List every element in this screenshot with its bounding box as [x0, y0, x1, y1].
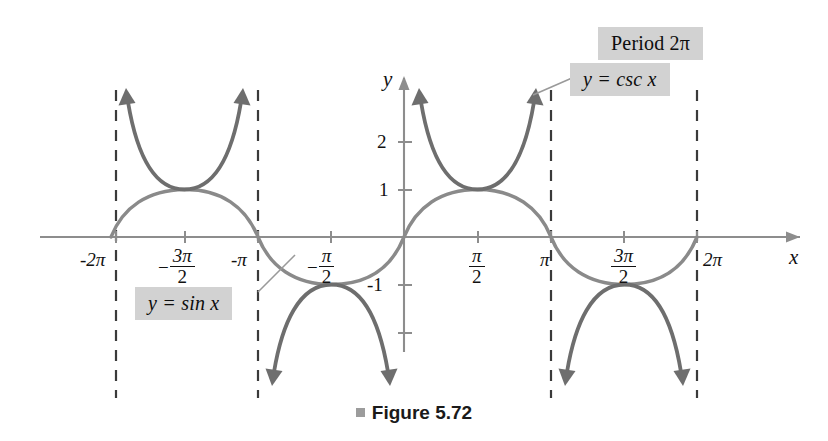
denominator-2: 2	[319, 267, 335, 288]
csc-branch-4	[567, 285, 681, 373]
csc-arrow-b1-right	[234, 88, 251, 106]
x-tick-label-pi: π	[540, 250, 550, 269]
callout-period-text: Period 2π	[611, 32, 690, 55]
asymptote-group	[116, 90, 697, 398]
denominator-2: 2	[469, 267, 485, 288]
figure-caption-text: Figure 5.72	[372, 402, 472, 423]
callout-csc-text: y = csc x	[583, 68, 657, 91]
csc-arrow-b2-left	[266, 369, 283, 387]
figure-caption: Figure 5.72	[0, 402, 828, 424]
x-tick-label-3pi-over-2: 3π 2	[611, 246, 636, 288]
figure-container: -2π − 3π 2 -π − π 2 π 2 π 3π 2	[0, 0, 828, 441]
y-tick-label-minus-1: -1	[367, 275, 383, 294]
numerator-3pi: 3π	[170, 246, 195, 267]
x-axis-label: x	[789, 247, 798, 268]
minus-sign-glyph: −	[307, 258, 318, 277]
x-tick-label-pi-over-2: π 2	[469, 246, 485, 288]
denominator-2: 2	[170, 267, 195, 288]
csc-arrow-b3-left	[412, 88, 429, 106]
y-tick-label-1: 1	[379, 180, 389, 199]
callout-sin-label: y = sin x	[135, 287, 232, 320]
square-bullet-icon	[356, 408, 365, 417]
y-axis-arrowhead	[399, 76, 410, 90]
csc-branch-2	[274, 285, 388, 373]
x-tick-label-minus-pi-over-2: − π 2	[307, 246, 334, 288]
y-tick-label-2: 2	[377, 132, 387, 151]
callout-period-label: Period 2π	[598, 27, 703, 60]
leader-line-csc	[533, 78, 572, 95]
x-tick-label-2pi: 2π	[703, 250, 722, 269]
callout-sin-text: y = sin x	[148, 292, 219, 315]
csc-branch-1	[128, 102, 241, 190]
callout-leader-lines	[258, 78, 572, 292]
callout-csc-label: y = csc x	[570, 63, 670, 96]
x-tick-label-minus-3pi-over-2: − 3π 2	[158, 246, 195, 288]
x-tick-label-minus-2pi: -2π	[80, 250, 105, 269]
csc-arrow-b3-right	[527, 88, 544, 106]
minus-sign-glyph: −	[158, 258, 169, 277]
csc-arrow-b1-left	[119, 88, 136, 106]
x-tick-label-minus-pi: -π	[231, 250, 247, 269]
numerator-3pi: 3π	[611, 246, 636, 267]
csc-branch-3	[421, 102, 534, 190]
numerator-pi: π	[319, 246, 335, 267]
cosecant-graph-plot	[0, 0, 828, 441]
denominator-2: 2	[611, 267, 636, 288]
csc-arrow-b4-left	[559, 369, 576, 387]
y-axis-label: y	[383, 69, 392, 90]
numerator-pi: π	[469, 246, 485, 267]
csc-arrow-b4-right	[674, 369, 691, 387]
csc-arrow-b2-right	[381, 369, 398, 387]
x-axis-arrowhead	[786, 232, 800, 243]
